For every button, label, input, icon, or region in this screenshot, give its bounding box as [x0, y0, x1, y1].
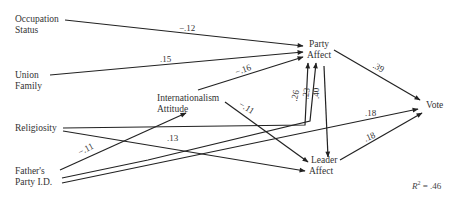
coef-intl-party: −.16 [234, 62, 253, 77]
coef-party-leader: .40 [311, 87, 321, 99]
node-label-line1: Vote [426, 100, 443, 111]
r-squared-annotation: R2 = .46 [412, 180, 441, 191]
edge-party-vote [334, 50, 420, 100]
node-fathers-party-id: Father's Party I.D. [15, 166, 52, 188]
node-party-affect: Party Affect [307, 39, 331, 61]
node-internationalism-attitude: Internationalism Attitude [157, 93, 219, 115]
edge-father-party [62, 63, 316, 178]
node-label-line1: Union [15, 70, 42, 81]
node-occupation-status: Occupation Status [15, 14, 59, 36]
node-label-line2: Affect [309, 166, 337, 177]
node-label-line1: Internationalism [157, 93, 219, 104]
node-label-line2: Attitude [157, 104, 219, 115]
coef-religiosity-party: .26 [289, 89, 301, 103]
coef-leader-vote: .18 [362, 130, 377, 144]
node-label-line2: Family [15, 81, 42, 92]
node-label-line1: Religiosity [15, 123, 57, 134]
coef-union-party: .15 [160, 54, 172, 64]
node-label-line1: Father's [15, 166, 52, 177]
node-label-line2: Affect [307, 50, 331, 61]
node-label-line1: Leader [309, 155, 337, 166]
node-leader-affect: Leader Affect [309, 155, 337, 177]
edge-party-leader [324, 66, 328, 157]
r-squared-value: = .46 [421, 181, 442, 191]
coef-religiosity-leader: .13 [167, 133, 179, 143]
node-vote: Vote [426, 100, 443, 111]
edge-religiosity-leader [63, 131, 305, 171]
node-religiosity: Religiosity [15, 123, 57, 134]
path-diagram: −.12 .15 −.16 .26 .23 .40 .39 −.11 .13 −… [0, 0, 459, 197]
node-label-line1: Party [307, 39, 331, 50]
coef-occupation-party: −.12 [179, 23, 195, 33]
edge-union-party [50, 52, 303, 75]
edge-intl-leader [225, 102, 308, 162]
node-label-line2: Party I.D. [15, 177, 52, 188]
edge-intl-party [198, 57, 303, 90]
node-union-family: Union Family [15, 70, 42, 92]
node-label-line1: Occupation [15, 14, 59, 25]
edge-leader-vote [340, 113, 422, 160]
node-label-line2: Status [15, 25, 59, 36]
coef-father-vote: .18 [365, 108, 377, 118]
